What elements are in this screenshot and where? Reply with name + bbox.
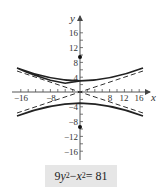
- y-tick-label: −12: [64, 132, 78, 142]
- focus-top-point: [78, 55, 82, 59]
- y-tick-label: 12: [69, 43, 78, 53]
- equation-rhs: = 81: [86, 169, 108, 184]
- y-tick-label: 16: [69, 28, 79, 38]
- x-axis-label: x: [150, 91, 156, 103]
- equation-label: 9y2 − x2 = 81: [45, 165, 117, 187]
- y-tick-label: 8: [74, 58, 79, 68]
- focus-bottom-point: [78, 125, 82, 129]
- y-axis-label: y: [69, 12, 75, 24]
- y-tick-label: −8: [68, 117, 78, 127]
- x-tick-label: −16: [14, 93, 29, 103]
- x-tick-label: 16: [135, 93, 145, 103]
- x-tick-label: 12: [120, 93, 129, 103]
- hyperbola-plot: −16 −8 8 12 16 x 16 12 8 4 −4 −8 −12 −16…: [0, 0, 163, 165]
- y-tick-label: −16: [64, 147, 79, 157]
- equation-var-y: y: [60, 169, 65, 184]
- equation-minus: −: [70, 169, 77, 184]
